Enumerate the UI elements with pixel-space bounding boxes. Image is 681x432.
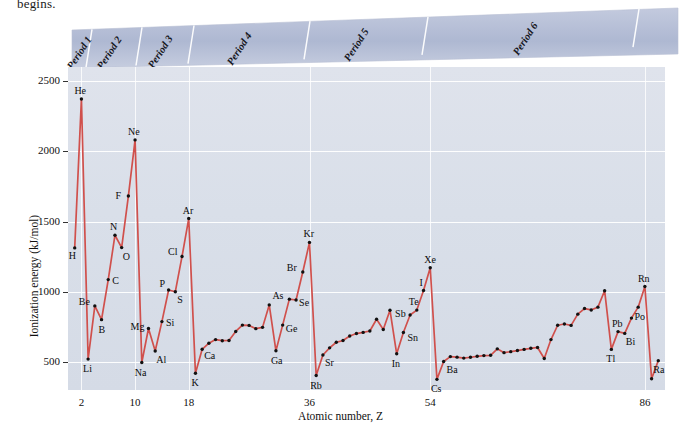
element-label-b: B xyxy=(99,324,106,335)
element-label-ga: Ga xyxy=(271,355,283,366)
data-point-z25 xyxy=(234,330,237,333)
data-point-z22 xyxy=(214,338,217,341)
data-point-z55 xyxy=(435,378,438,381)
data-point-z4 xyxy=(93,304,96,307)
element-label-bi: Bi xyxy=(626,336,635,347)
element-label-ar: Ar xyxy=(183,205,194,216)
data-point-z32 xyxy=(281,323,284,326)
element-label-cl: Cl xyxy=(168,246,177,257)
y-tick-label-1000: 1000 xyxy=(0,285,60,297)
element-label-kr: Kr xyxy=(304,228,315,239)
data-point-z86 xyxy=(643,285,646,288)
data-point-z80 xyxy=(603,289,606,292)
data-point-z48 xyxy=(388,309,391,312)
x-tick-label-54: 54 xyxy=(410,396,450,408)
data-point-z9 xyxy=(127,194,130,197)
data-point-z49 xyxy=(395,352,398,355)
element-label-cs: Cs xyxy=(431,383,442,394)
data-point-z61 xyxy=(475,355,478,358)
x-axis-label: Atomic number, Z xyxy=(0,410,681,422)
data-point-z15 xyxy=(167,288,170,291)
data-point-z79 xyxy=(596,305,599,308)
element-label-in: In xyxy=(392,358,400,369)
element-label-sb: Sb xyxy=(395,308,406,319)
element-label-h: H xyxy=(69,250,76,261)
data-point-z73 xyxy=(556,324,559,327)
x-tick-label-10: 10 xyxy=(115,396,155,408)
data-point-z2 xyxy=(80,97,83,100)
data-point-z31 xyxy=(274,349,277,352)
data-point-z40 xyxy=(335,341,338,344)
data-point-z51 xyxy=(408,313,411,316)
element-label-as: As xyxy=(272,290,283,301)
data-point-z85 xyxy=(636,305,639,308)
data-point-z67 xyxy=(516,349,519,352)
ionization-energy-series xyxy=(68,67,665,390)
x-tick-label-86: 86 xyxy=(625,396,665,408)
data-point-z44 xyxy=(361,331,364,334)
data-point-z63 xyxy=(489,354,492,357)
y-tick-label-2500: 2500 xyxy=(0,74,60,86)
data-point-z75 xyxy=(569,324,572,327)
data-point-z30 xyxy=(268,303,271,306)
element-label-rb: Rb xyxy=(310,380,322,391)
data-point-z78 xyxy=(590,308,593,311)
data-point-z17 xyxy=(180,255,183,258)
data-point-z50 xyxy=(402,331,405,334)
data-point-z70 xyxy=(536,346,539,349)
data-point-z58 xyxy=(455,355,458,358)
data-point-z45 xyxy=(368,329,371,332)
data-point-z23 xyxy=(221,339,224,342)
data-point-z3 xyxy=(86,357,89,360)
data-point-z27 xyxy=(247,324,250,327)
data-point-z42 xyxy=(348,334,351,337)
element-label-be: Be xyxy=(79,296,90,307)
y-tick-label-2000: 2000 xyxy=(0,144,60,156)
data-point-z87 xyxy=(650,377,653,380)
data-point-z26 xyxy=(241,323,244,326)
data-point-z72 xyxy=(549,338,552,341)
element-label-ca: Ca xyxy=(204,350,215,361)
data-point-z56 xyxy=(442,360,445,363)
data-point-z19 xyxy=(194,372,197,375)
element-label-sn: Sn xyxy=(407,332,418,343)
element-label-te: Te xyxy=(409,296,419,307)
element-label-i: I xyxy=(420,277,423,288)
element-label-ba: Ba xyxy=(447,364,458,375)
data-point-z18 xyxy=(187,217,190,220)
plot-area: HHeLiBeBCNOFNeNaMgAlSiPSClArKCaGaGeAsSeB… xyxy=(68,67,665,390)
figure-container: begins. Period 1 Period 2 Perio xyxy=(0,0,681,432)
x-tick-label-18: 18 xyxy=(169,396,209,408)
element-label-na: Na xyxy=(135,367,147,378)
period-banner: Period 1 Period 2 Period 3 Period 4 Peri… xyxy=(58,8,678,70)
element-label-ge: Ge xyxy=(286,323,298,334)
data-point-z29 xyxy=(261,326,264,329)
data-point-z60 xyxy=(469,356,472,359)
data-point-z39 xyxy=(328,346,331,349)
element-label-k: K xyxy=(191,377,198,388)
data-point-z71 xyxy=(543,357,546,360)
element-label-c: C xyxy=(112,275,119,286)
data-point-z69 xyxy=(529,347,532,350)
element-label-tl: Tl xyxy=(606,353,615,364)
data-point-z7 xyxy=(113,234,116,237)
element-label-pb: Pb xyxy=(612,318,623,329)
data-point-z13 xyxy=(154,349,157,352)
data-point-z46 xyxy=(375,318,378,321)
data-point-z43 xyxy=(355,332,358,335)
data-point-z34 xyxy=(294,298,297,301)
x-tick-label-2: 2 xyxy=(61,396,101,408)
data-point-z76 xyxy=(576,312,579,315)
element-label-ne: Ne xyxy=(128,126,140,137)
element-label-si: Si xyxy=(166,317,174,328)
data-point-z12 xyxy=(147,327,150,330)
data-point-z81 xyxy=(610,348,613,351)
data-point-z66 xyxy=(509,350,512,353)
data-point-z88 xyxy=(657,359,660,362)
data-point-z65 xyxy=(502,351,505,354)
data-point-z41 xyxy=(341,339,344,342)
data-point-z36 xyxy=(308,241,311,244)
data-point-z54 xyxy=(429,266,432,269)
data-point-z5 xyxy=(100,318,103,321)
data-point-z68 xyxy=(522,348,525,351)
